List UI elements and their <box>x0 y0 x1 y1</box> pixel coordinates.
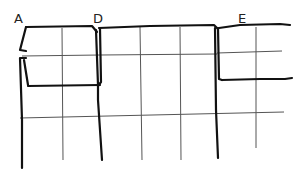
point-label-a: A <box>14 12 23 25</box>
point-label-d: D <box>93 12 103 25</box>
thin-grid-lines <box>20 27 284 160</box>
grid-diagram <box>0 0 306 172</box>
thick-outline <box>20 24 292 168</box>
point-label-e: E <box>238 12 246 25</box>
